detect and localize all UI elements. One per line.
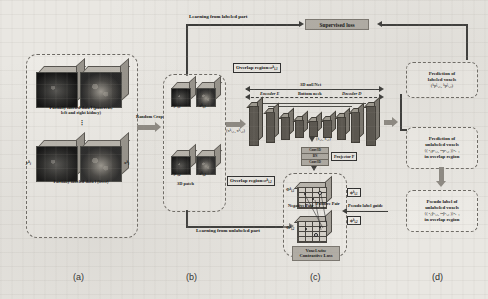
- positive-pair-label: Positive Pair: [316, 202, 340, 207]
- supervised-loss-box: Supervised loss: [305, 19, 369, 30]
- labeled-flow-vertical: [186, 24, 188, 76]
- random-crop-label: Random Crop: [136, 115, 163, 120]
- pseudo-label-box: Pseudo label of unlabeled voxels {( ⁿ₁ŷᵏ…: [406, 190, 478, 232]
- figure-canvas: Learning from labeled part Supervised lo…: [0, 0, 488, 299]
- panel-a-caption-bottom: Partially labeled data l (liver): [33, 180, 129, 185]
- panel-b-patch-image-2-tag: xki,2: [199, 172, 206, 177]
- network-to-prediction-arrow: [384, 117, 398, 127]
- pseudo-label-math: {( ⁿ₁ŷᵏᵢ,₁, ⁿ²ŷᵏᵢ,₂ )}ⁿₒ₌₁: [424, 211, 460, 216]
- panel-caption-d: (d): [432, 272, 443, 282]
- nnunet-span-right-arrow: [379, 86, 384, 92]
- phi-output-bottom: ϕki,2: [347, 216, 361, 225]
- nnunet-span-bracket: [246, 89, 382, 90]
- overlap-region-top-box: Overlap region:oki,1: [233, 63, 281, 73]
- contrastive-loss-line1: Voxel-wise: [306, 248, 327, 253]
- feature-pair-label: (fᵢ,₁, fᵢ,₂): [316, 137, 331, 142]
- panel-caption-a: (a): [73, 272, 84, 282]
- prediction-unlabeled-line1: Prediction of: [429, 136, 455, 141]
- prediction-to-pseudo-arrow: [436, 167, 446, 187]
- panel-b-patch-label-1-tag: yki,1: [174, 104, 181, 109]
- learning-from-labeled-label: Learning from labeled part: [189, 14, 247, 20]
- random-crop-arrow: [137, 122, 161, 132]
- labeled-flow-arrowhead: [299, 21, 304, 27]
- prediction-unlabeled-line4: in overlap region: [425, 154, 460, 159]
- projector-row-conv2: Conv3D: [301, 159, 329, 166]
- prediction-unlabeled-box: Prediction of unlabeled voxels {( ⁿ₁pᵏᵢ,…: [406, 127, 478, 169]
- embedding-cube-2-tag: Φki,2: [286, 226, 294, 231]
- decoder-label: Decoder D: [340, 92, 363, 97]
- pseudo-label-line1: Pseudo label of: [427, 199, 458, 204]
- pseudo-guide-line: [346, 211, 388, 212]
- projector-label-box: Projector P: [331, 152, 357, 161]
- pseudo-guide-arrowhead: [342, 208, 347, 214]
- phi-output-top: ϕki,1: [347, 188, 361, 197]
- panel-caption-c: (c): [310, 272, 321, 282]
- embedding-cube-1-tag: Φki,1: [286, 188, 294, 193]
- pseudo-label-line4: in overlap region: [425, 217, 460, 222]
- encoder-decoder-bracket: [246, 97, 382, 98]
- learning-from-unlabeled-label: Learning from unlabeled part: [196, 228, 260, 234]
- labeled-flow-horizontal: [186, 24, 299, 26]
- supervised-loss-inflow-arrowhead: [377, 21, 382, 27]
- contrastive-loss-box: Voxel-wise Contrastive Loss: [292, 246, 340, 261]
- contrastive-loss-line2: Contrastive Loss: [299, 253, 332, 258]
- pseudo-label-line2: unlabeled voxels: [425, 205, 459, 210]
- supervised-loss-inflow-h: [382, 24, 468, 26]
- prediction-column-link: [400, 94, 402, 130]
- prediction-labeled-line1: Prediction of: [429, 71, 455, 76]
- patch-pair-note: (xᵏᵢ,₁, xᵏᵢ,₂): [226, 129, 245, 134]
- pseudo-label-guide-label: Pseudo label guide: [348, 204, 383, 209]
- prediction-column-link-h: [400, 129, 407, 131]
- panel-a-label-volume-tag: yki: [26, 160, 31, 167]
- bottleneck-label: Bottom neck: [296, 92, 324, 97]
- nnunet-span-left-arrow: [245, 86, 250, 92]
- supervised-loss-inflow-v: [466, 24, 468, 60]
- overlap-region-bottom-box: Overlap region:oki,2: [227, 176, 275, 186]
- skip-connection-outer: [254, 103, 366, 104]
- prediction-unlabeled-line2: unlabeled voxels: [425, 142, 459, 147]
- panel-b-patch-label-2-tag: yki,2: [174, 172, 181, 177]
- panel-a-caption-top: Partially labeled data l (pancreas, left…: [33, 106, 129, 116]
- prediction-labeled-math: (ᵏpˡᵢ,₁, ᵏpˡᵢ,₂): [431, 83, 453, 88]
- panel-a-caption-top-line2: left and right kidney): [61, 110, 101, 115]
- prediction-unlabeled-math: {( ⁿ₁pᵏᵢ,₁, ⁿ²pᵏᵢ,₂ )}ⁿₒ₌₁: [424, 148, 460, 153]
- feature-tap-arrowhead: [309, 137, 315, 142]
- encoder-left-arrow: [245, 94, 250, 100]
- nnunet-label: 3D nnUNet: [298, 83, 323, 88]
- panel-b-patch-image-1-tag: xki,1: [199, 104, 206, 109]
- projector-out-arrowhead: [311, 166, 317, 171]
- skip-connection-inner: [268, 106, 352, 107]
- panel-a-vertical-dots: ⋮: [79, 119, 85, 126]
- panel-a-image-volume-tag: xki: [124, 160, 129, 167]
- panel-caption-b: (b): [186, 272, 197, 282]
- prediction-labeled-box: Prediction of labeled voxels (ᵏpˡᵢ,₁, ᵏp…: [406, 62, 478, 98]
- negative-pair-label: Negative Pair: [288, 204, 313, 209]
- panel-b-patch-caption: 3D patch: [177, 182, 194, 187]
- prediction-labeled-line2: labeled voxels: [428, 77, 456, 82]
